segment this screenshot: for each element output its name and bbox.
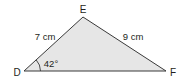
side-label-de: 7 cm (35, 31, 56, 42)
vertex-label-f: F (170, 67, 176, 78)
vertex-label-e: E (80, 4, 87, 15)
side-label-ef: 9 cm (123, 31, 144, 42)
triangle-diagram: E D F 7 cm 9 cm 42° (0, 0, 185, 81)
vertex-label-d: D (13, 67, 20, 78)
angle-label-d: 42° (44, 58, 59, 69)
